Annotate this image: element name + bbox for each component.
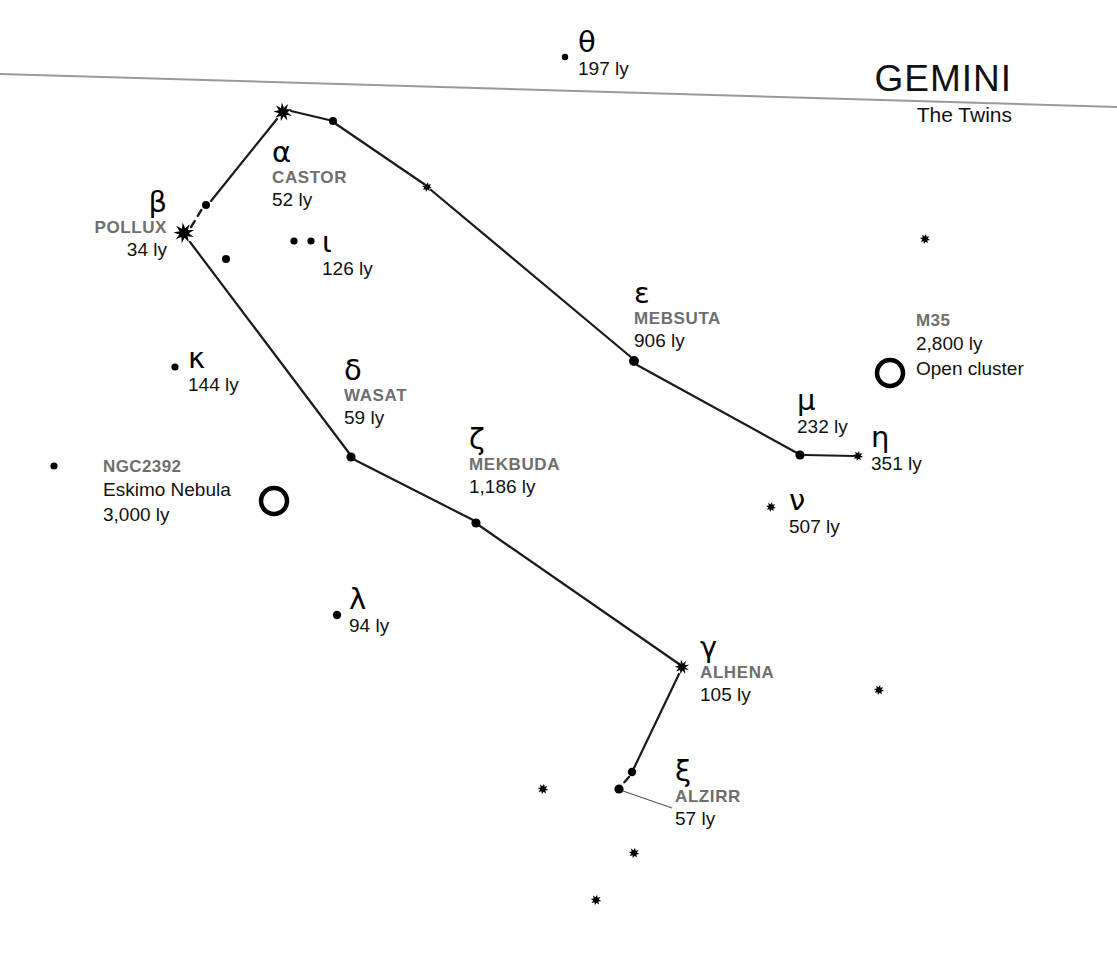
- star-field-right-1: [920, 234, 930, 244]
- constellation-title: GEMINI: [0, 58, 1012, 100]
- star-proper-name-wasat: WASAT: [344, 385, 407, 406]
- star-label-castor: αCASTOR52 ly: [272, 138, 347, 213]
- star-distance-mu: 232 ly: [797, 415, 848, 440]
- star-proper-name-pollux: POLLUX: [94, 217, 167, 238]
- star-label-nu: ν507 ly: [789, 486, 840, 540]
- star-label-theta: θ197 ly: [578, 28, 629, 82]
- dso-name-m35: M35: [916, 310, 1024, 332]
- star-distance-castor: 52 ly: [272, 188, 347, 213]
- star-distance-alzirr: 57 ly: [675, 807, 741, 832]
- constellation-line-wasat-mekbuda: [355, 460, 473, 520]
- star-proper-name-alzirr: ALZIRR: [675, 786, 741, 807]
- star-distance-eta: 351 ly: [871, 452, 922, 477]
- star-label-mebsuta: εMEBSUTA906 ly: [634, 279, 721, 354]
- star-proper-name-castor: CASTOR: [272, 167, 347, 188]
- star-distance-alhena: 105 ly: [700, 683, 774, 708]
- star-label-eta: η351 ly: [871, 423, 922, 477]
- star-label-kappa: κ144 ly: [188, 344, 239, 398]
- dso-detail-ngc2392-0: Eskimo Nebula: [103, 478, 231, 503]
- leader-lines-group: [623, 791, 672, 808]
- constellation-chart: GEMINI The Twins θ197 lyαCASTOR52 lyβPOL…: [0, 0, 1117, 955]
- star-distance-iota: 126 ly: [322, 257, 373, 282]
- constellation-line-pollux-castor-b: [211, 119, 277, 201]
- greek-letter-eta: η: [871, 423, 922, 452]
- greek-letter-mu: μ: [797, 386, 848, 415]
- star-label-alhena: γALHENA105 ly: [700, 633, 774, 708]
- dso-label-ngc2392: NGC2392Eskimo Nebula3,000 ly: [103, 456, 231, 527]
- star-proper-name-alhena: ALHENA: [700, 662, 774, 683]
- dso-label-m35: M352,800 lyOpen cluster: [916, 310, 1024, 381]
- constellation-line-alhena-node: [634, 674, 679, 768]
- greek-letter-wasat: δ: [344, 356, 407, 385]
- star-label-wasat: δWASAT59 ly: [344, 356, 407, 431]
- star-label-iota: ι126 ly: [322, 228, 373, 282]
- star-distance-kappa: 144 ly: [188, 373, 239, 398]
- star-distance-theta: 197 ly: [578, 57, 629, 82]
- constellation-line-mu-eta: [805, 455, 854, 456]
- greek-letter-alzirr: ξ: [675, 757, 741, 786]
- greek-letter-iota: ι: [322, 228, 373, 257]
- star-iota-a: [290, 237, 297, 244]
- dso-symbol-m35: [877, 360, 903, 386]
- dso-symbol-ngc2392: [261, 488, 287, 514]
- greek-letter-castor: α: [272, 138, 347, 167]
- greek-letter-mebsuta: ε: [634, 279, 721, 308]
- star-distance-mebsuta: 906 ly: [634, 329, 721, 354]
- star-kappa: [171, 363, 178, 370]
- leader-line-alzirr-leader: [623, 791, 672, 808]
- star-mebsuta: [629, 356, 639, 366]
- constellation-line-upsilon-mebsuta: [431, 190, 632, 358]
- star-rho-node: [222, 255, 230, 263]
- star-field-bottom-2: [629, 848, 640, 859]
- dso-detail-m35-0: 2,800 ly: [916, 332, 1024, 357]
- dso-detail-ngc2392-1: 3,000 ly: [103, 503, 231, 528]
- star-lambda: [333, 611, 341, 619]
- constellation-line-dot-upsilon: [336, 124, 424, 184]
- star-alzirr: [614, 784, 623, 793]
- star-alzirr-node: [628, 768, 636, 776]
- constellation-line-node-alzirr: [621, 777, 629, 786]
- star-wasat: [346, 452, 355, 461]
- star-field-left-1: [50, 462, 57, 469]
- greek-letter-pollux: β: [94, 188, 167, 217]
- star-distance-wasat: 59 ly: [344, 406, 407, 431]
- star-field-bottom-3: [591, 895, 602, 906]
- greek-letter-lambda: λ: [349, 585, 389, 614]
- greek-letter-kappa: κ: [188, 344, 239, 373]
- constellation-subtitle: The Twins: [0, 103, 1012, 127]
- star-field-bottom-1: [538, 784, 549, 795]
- star-field-right-2: [874, 685, 884, 695]
- star-iota-b: [307, 237, 314, 244]
- star-proper-name-mekbuda: MEKBUDA: [469, 454, 560, 475]
- constellation-line-mebsuta-mu: [637, 365, 797, 453]
- star-nu: [766, 502, 776, 512]
- star-label-alzirr: ξALZIRR57 ly: [675, 757, 741, 832]
- star-distance-nu: 507 ly: [789, 515, 840, 540]
- dso-detail-m35-1: Open cluster: [916, 357, 1024, 382]
- star-mekbuda: [471, 518, 480, 527]
- star-label-pollux: βPOLLUX34 ly: [94, 188, 167, 263]
- greek-letter-alhena: γ: [700, 633, 774, 662]
- star-distance-mekbuda: 1,186 ly: [469, 475, 560, 500]
- star-label-mekbuda: ζMEKBUDA1,186 ly: [469, 425, 560, 500]
- star-distance-lambda: 94 ly: [349, 614, 389, 639]
- greek-letter-nu: ν: [789, 486, 840, 515]
- dso-name-ngc2392: NGC2392: [103, 456, 231, 478]
- star-mu: [795, 450, 804, 459]
- constellation-line-mekbuda-alhena: [480, 526, 679, 664]
- star-tau-node: [202, 201, 210, 209]
- star-label-mu: μ232 ly: [797, 386, 848, 440]
- star-label-lambda: λ94 ly: [349, 585, 389, 639]
- star-distance-pollux: 34 ly: [94, 238, 167, 263]
- greek-letter-theta: θ: [578, 28, 629, 57]
- greek-letter-mekbuda: ζ: [469, 425, 560, 454]
- star-proper-name-mebsuta: MEBSUTA: [634, 308, 721, 329]
- constellation-line-pollux-castor-a: [191, 209, 202, 227]
